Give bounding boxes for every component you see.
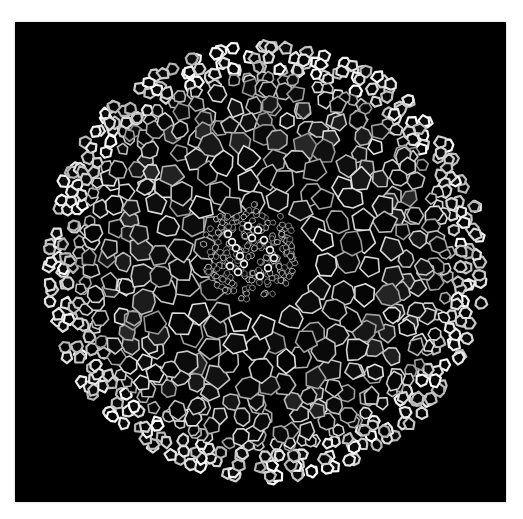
root-cross-section <box>15 22 506 502</box>
micrograph-frame: Circular cross-section of a plant root s… <box>15 22 506 502</box>
cortex-cells <box>43 40 488 484</box>
